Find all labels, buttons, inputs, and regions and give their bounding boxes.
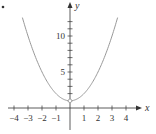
x-tick-label: 4 bbox=[124, 113, 129, 123]
x-tick-label: −3 bbox=[23, 113, 33, 123]
y-axis bbox=[68, 2, 73, 130]
x-axis-label: x bbox=[144, 102, 150, 113]
parabola-chart: −4−3−2−11234 510 x y bbox=[0, 0, 156, 134]
x-axis-arrow-icon bbox=[136, 106, 142, 111]
y-axis-label: y bbox=[74, 0, 80, 11]
y-tick-labels: 510 bbox=[56, 31, 66, 77]
vertex-open-circle bbox=[68, 99, 72, 103]
x-tick-label: 3 bbox=[110, 113, 115, 123]
x-tick-label: −2 bbox=[37, 113, 47, 123]
x-tick-label: −1 bbox=[51, 113, 61, 123]
x-tick-label: 2 bbox=[96, 113, 101, 123]
y-tick-label: 10 bbox=[56, 31, 66, 41]
x-tick-labels: −4−3−2−11234 bbox=[9, 113, 129, 123]
bullet-dot bbox=[2, 6, 5, 9]
x-tick-label: −4 bbox=[9, 113, 19, 123]
y-tick-label: 5 bbox=[61, 67, 66, 77]
y-axis-arrow-icon bbox=[68, 2, 73, 8]
x-tick-label: 1 bbox=[82, 113, 87, 123]
